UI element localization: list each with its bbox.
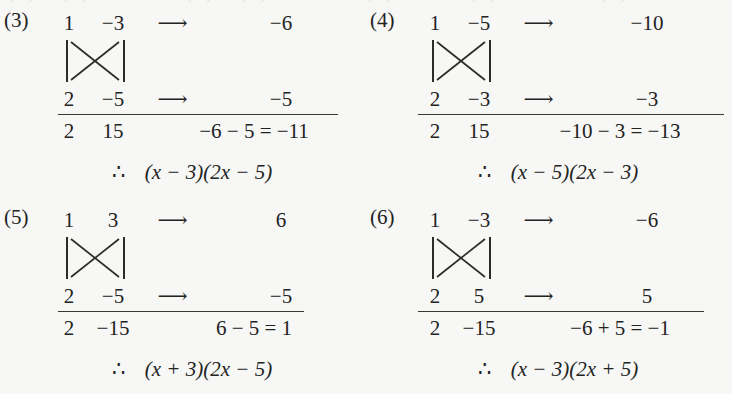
row1-product: −10 — [572, 10, 722, 36]
factor-first: (x − 3) — [145, 160, 203, 184]
coefficient-row-bottom: 2 −3 ⟶ −3 — [422, 86, 728, 112]
sum-row: 2 15 −6 − 5 = −11 — [56, 117, 362, 145]
row2-product: −3 — [572, 86, 722, 112]
sum-row: 2 −15 −6 + 5 = −1 — [422, 314, 728, 342]
problem-number: (3) — [4, 10, 29, 31]
horizontal-rule — [58, 311, 304, 312]
cross-x-lines — [69, 40, 121, 82]
factor-first: (x − 3) — [511, 357, 569, 381]
cross-bar-left — [66, 237, 68, 279]
right-arrow-icon: ⟶ — [506, 86, 570, 112]
sum-left-coefficient: 2 — [56, 117, 82, 145]
right-arrow-icon: ⟶ — [506, 10, 570, 36]
sum-expression: 6 − 5 = 1 — [148, 314, 360, 342]
row2-right-factor: −3 — [454, 86, 504, 112]
sum-right-coefficient: −15 — [454, 314, 504, 342]
horizontal-rule — [58, 114, 338, 115]
problem-5: (5) 1 3 ⟶ 6 2 −5 ⟶ −5 — [0, 197, 366, 394]
row1-right-factor: 3 — [88, 207, 138, 233]
row1-left-factor: 1 — [56, 10, 82, 36]
row1-left-factor: 1 — [56, 207, 82, 233]
sum-left-coefficient: 2 — [422, 314, 448, 342]
row1-left-factor: 1 — [422, 207, 448, 233]
cross-multiplication-x-icon — [57, 233, 161, 283]
therefore-icon: ∴ — [112, 158, 125, 186]
horizontal-rule — [418, 311, 704, 312]
problem-number: (4) — [370, 10, 395, 31]
conclusion-line: ∴(x − 3)(2x − 5) — [0, 158, 366, 186]
cross-bar-right — [489, 40, 491, 82]
sum-left-coefficient: 2 — [56, 314, 82, 342]
row2-right-factor: 5 — [454, 283, 504, 309]
right-arrow-icon: ⟶ — [140, 207, 204, 233]
row2-product: −5 — [206, 86, 356, 112]
row1-product: 6 — [206, 207, 356, 233]
cross-multiplication-x-icon — [57, 36, 161, 86]
factor-second: (2x − 3) — [569, 160, 638, 184]
cross-bar-left — [66, 40, 68, 82]
problem-3: (3) 1 −3 ⟶ −6 2 −5 ⟶ −5 — [0, 0, 366, 197]
problem-number: (5) — [4, 207, 29, 228]
cross-bar-right — [489, 237, 491, 279]
cross-method-grid: 1 −3 ⟶ −6 2 −5 ⟶ −5 — [56, 10, 362, 112]
sum-expression: −6 + 5 = −1 — [514, 314, 726, 342]
factor-first: (x + 3) — [145, 357, 203, 381]
coefficient-row-bottom: 2 −5 ⟶ −5 — [56, 86, 362, 112]
factor-first: (x − 5) — [511, 160, 569, 184]
right-arrow-icon: ⟶ — [140, 283, 204, 309]
cross-method-grid: 1 −5 ⟶ −10 2 −3 ⟶ −3 — [422, 10, 728, 112]
cross-x-lines — [435, 237, 487, 279]
coefficient-row-top: 1 −5 ⟶ −10 — [422, 10, 728, 36]
row1-left-factor: 1 — [422, 10, 448, 36]
therefore-icon: ∴ — [478, 158, 491, 186]
cross-method-grid: 1 3 ⟶ 6 2 −5 ⟶ −5 — [56, 207, 362, 309]
sum-right-coefficient: −15 — [88, 314, 138, 342]
right-arrow-icon: ⟶ — [140, 10, 204, 36]
horizontal-rule — [418, 114, 724, 115]
right-arrow-icon: ⟶ — [140, 86, 204, 112]
row2-left-factor: 2 — [56, 86, 82, 112]
right-arrow-icon: ⟶ — [506, 283, 570, 309]
row1-right-factor: −3 — [88, 10, 138, 36]
row2-left-factor: 2 — [422, 283, 448, 309]
cross-bar-right — [123, 237, 125, 279]
sum-row: 2 −15 6 − 5 = 1 — [56, 314, 362, 342]
row2-right-factor: −5 — [88, 86, 138, 112]
row1-product: −6 — [206, 10, 356, 36]
problem-number: (6) — [370, 207, 395, 228]
sum-left-coefficient: 2 — [422, 117, 448, 145]
coefficient-row-top: 1 3 ⟶ 6 — [56, 207, 362, 233]
row1-right-factor: −5 — [454, 10, 504, 36]
conclusion-line: ∴(x + 3)(2x − 5) — [0, 355, 366, 383]
sum-right-coefficient: 15 — [88, 117, 138, 145]
right-arrow-icon: ⟶ — [506, 207, 570, 233]
row2-left-factor: 2 — [56, 283, 82, 309]
worksheet-page: (3) 1 −3 ⟶ −6 2 −5 ⟶ −5 — [0, 0, 732, 394]
conclusion-line: ∴(x − 3)(2x + 5) — [366, 355, 732, 383]
sum-row: 2 15 −10 − 3 = −13 — [422, 117, 728, 145]
row2-right-factor: −5 — [88, 283, 138, 309]
coefficient-row-top: 1 −3 ⟶ −6 — [56, 10, 362, 36]
cross-bar-left — [432, 40, 434, 82]
conclusion-line: ∴(x − 5)(2x − 3) — [366, 158, 732, 186]
row1-right-factor: −3 — [454, 207, 504, 233]
row2-product: 5 — [572, 283, 722, 309]
cross-multiplication-x-icon — [423, 36, 527, 86]
cross-bar-right — [123, 40, 125, 82]
factor-second: (2x + 5) — [569, 357, 638, 381]
therefore-icon: ∴ — [112, 355, 125, 383]
factor-second: (2x − 5) — [203, 357, 272, 381]
coefficient-row-bottom: 2 −5 ⟶ −5 — [56, 283, 362, 309]
coefficient-row-bottom: 2 5 ⟶ 5 — [422, 283, 728, 309]
factor-second: (2x − 5) — [203, 160, 272, 184]
cross-multiplication-x-icon — [423, 233, 527, 283]
row2-product: −5 — [206, 283, 356, 309]
row2-left-factor: 2 — [422, 86, 448, 112]
sum-right-coefficient: 15 — [454, 117, 504, 145]
cross-x-lines — [69, 237, 121, 279]
cross-method-grid: 1 −3 ⟶ −6 2 5 ⟶ 5 — [422, 207, 728, 309]
sum-expression: −10 − 3 = −13 — [514, 117, 726, 145]
cross-bar-left — [432, 237, 434, 279]
cross-x-lines — [435, 40, 487, 82]
problem-6: (6) 1 −3 ⟶ −6 2 5 ⟶ 5 — [366, 197, 732, 394]
